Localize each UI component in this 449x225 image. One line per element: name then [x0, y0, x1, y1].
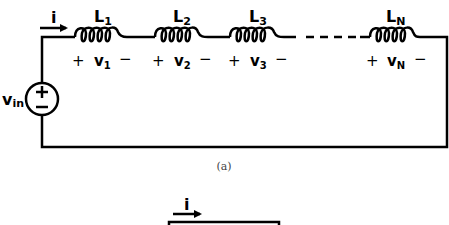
inductor-l3-label: L3: [249, 7, 267, 28]
voltage-source: vin: [2, 83, 58, 115]
current-label-a: i: [51, 8, 56, 27]
voltage-v1: + v1 −: [72, 50, 132, 71]
voltage-v3: + v3 −: [228, 50, 288, 71]
inductor-l2: [155, 28, 208, 42]
wire-b-top: [169, 222, 279, 225]
current-arrow-a: i: [40, 8, 66, 28]
svg-text:v2: v2: [174, 52, 191, 71]
svg-text:+: +: [228, 52, 241, 70]
current-label-b: i: [184, 195, 189, 214]
inductor-l3: [230, 28, 284, 42]
caption-a: (a): [216, 160, 231, 173]
wire-top-left: [42, 37, 75, 83]
svg-text:−: −: [275, 50, 288, 68]
svg-text:+: +: [152, 52, 165, 70]
inductor-l2-label: L2: [173, 7, 191, 28]
voltage-v2: + v2 −: [152, 50, 212, 71]
svg-text:−: −: [414, 50, 427, 68]
inductor-l1-label: L1: [94, 7, 112, 28]
inductor-ln: [370, 28, 420, 42]
svg-text:−: −: [119, 50, 132, 68]
svg-text:v3: v3: [250, 52, 267, 71]
voltage-vn: + vN −: [366, 50, 427, 71]
svg-text:−: −: [199, 50, 212, 68]
svg-text:+: +: [366, 52, 379, 70]
svg-text:vN: vN: [387, 52, 405, 71]
circuit-diagram: i L1 L2 L3 LN + v1 − + v2 − + v3 − + vN …: [0, 0, 449, 225]
source-label: vin: [2, 90, 24, 110]
svg-text:+: +: [72, 52, 85, 70]
part-b-partial: i: [169, 195, 279, 225]
svg-text:v1: v1: [94, 52, 111, 71]
inductor-l1: [75, 28, 127, 42]
inductor-ln-label: LN: [386, 7, 405, 28]
